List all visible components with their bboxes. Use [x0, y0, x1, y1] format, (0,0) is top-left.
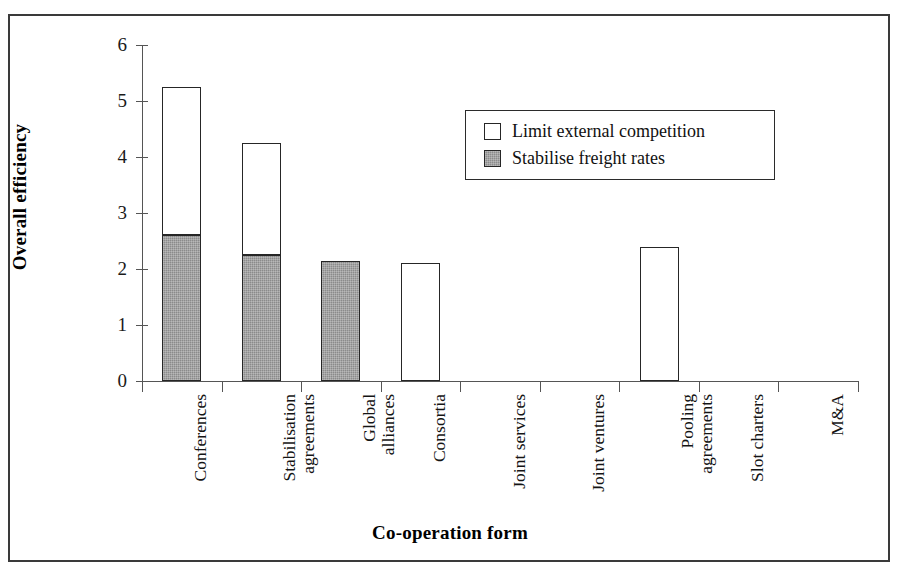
x-axis-category-label: Globalalliances: [360, 394, 398, 544]
bar-slot: [162, 45, 201, 381]
bar-slot: [242, 45, 281, 381]
x-axis-tick: [540, 381, 541, 392]
legend-swatch-gray-icon: [484, 150, 501, 167]
bar-slot: [799, 45, 838, 381]
x-axis-category-label: Slot charters: [748, 394, 767, 544]
x-axis-category-label-line: Consortia: [430, 394, 449, 544]
x-axis-category-label: Consortia: [430, 394, 449, 544]
chart-figure: Overall efficiency Co-operation form 012…: [0, 0, 900, 574]
x-axis-category-label-line: Joint ventures: [589, 394, 608, 544]
x-axis-category-label: M&A: [828, 394, 847, 544]
y-axis-tick-label: 6: [118, 34, 128, 56]
bar-slot: [560, 45, 599, 381]
y-axis-tick-label: 2: [118, 258, 128, 280]
chart-legend: Limit external competition Stabilise fre…: [465, 110, 775, 180]
bar-segment-stabilise-freight-rates: [242, 255, 281, 381]
x-axis-category-label-line: Joint services: [510, 394, 529, 544]
bar-segment-limit-external-competition: [401, 263, 440, 381]
y-axis-tick: 2: [136, 269, 148, 270]
x-axis-category-label-line: Stabilisation: [280, 394, 299, 544]
legend-label: Stabilise freight rates: [512, 148, 665, 169]
x-axis-category-label-line: agreements: [697, 394, 716, 544]
y-axis-title: Overall efficiency: [9, 0, 31, 457]
x-axis-line: [142, 381, 858, 382]
x-axis-tick: [460, 381, 461, 392]
x-axis-category-label-line: M&A: [828, 394, 847, 544]
y-axis-tick-label: 4: [118, 146, 128, 168]
x-axis-tick: [381, 381, 382, 392]
x-axis-category-label: Stabilisationagreements: [280, 394, 318, 544]
legend-swatch-white-icon: [484, 123, 501, 140]
x-axis-tick: [142, 381, 143, 392]
x-axis-tick: [222, 381, 223, 392]
x-axis-category-label-line: Slot charters: [748, 394, 767, 544]
bar-slot: [481, 45, 520, 381]
y-axis-tick: 4: [136, 157, 148, 158]
y-axis-tick-label: 5: [118, 90, 128, 112]
y-axis-tick: 5: [136, 101, 148, 102]
bar-slot: [719, 45, 758, 381]
x-axis-tick: [778, 381, 779, 392]
x-axis-category-label-line: alliances: [379, 394, 398, 544]
x-axis-category-label: Conferences: [191, 394, 210, 544]
x-axis-tick: [858, 381, 859, 392]
legend-item: Stabilise freight rates: [484, 145, 774, 172]
bar-segment-limit-external-competition: [640, 247, 679, 381]
bar-segment-limit-external-competition: [162, 87, 201, 235]
bar-segment-limit-external-competition: [242, 143, 281, 255]
x-axis-category-label-line: Conferences: [191, 394, 210, 544]
x-axis-category-label: Joint ventures: [589, 394, 608, 544]
legend-item: Limit external competition: [484, 118, 774, 145]
plot-area: 0123456: [142, 45, 858, 381]
x-axis-category-label-line: Global: [360, 394, 379, 544]
x-axis-tick: [619, 381, 620, 392]
x-axis-category-label: Joint services: [510, 394, 529, 544]
bar-slot: [640, 45, 679, 381]
y-axis-tick: 1: [136, 325, 148, 326]
y-axis-tick-label: 0: [118, 370, 128, 392]
bar-slot: [321, 45, 360, 381]
bar-segment-stabilise-freight-rates: [162, 235, 201, 381]
x-axis-category-label-line: Pooling: [678, 394, 697, 544]
x-axis-category-label: Poolingagreements: [678, 394, 716, 544]
y-axis-tick-label: 3: [118, 202, 128, 224]
y-axis-tick: 6: [136, 45, 148, 46]
bar-slot: [401, 45, 440, 381]
x-axis-tick: [699, 381, 700, 392]
x-axis-tick: [301, 381, 302, 392]
legend-label: Limit external competition: [512, 121, 705, 142]
y-axis-tick-label: 1: [118, 314, 128, 336]
bar-segment-stabilise-freight-rates: [321, 261, 360, 381]
y-axis-tick: 3: [136, 213, 148, 214]
x-axis-category-label-line: agreements: [299, 394, 318, 544]
